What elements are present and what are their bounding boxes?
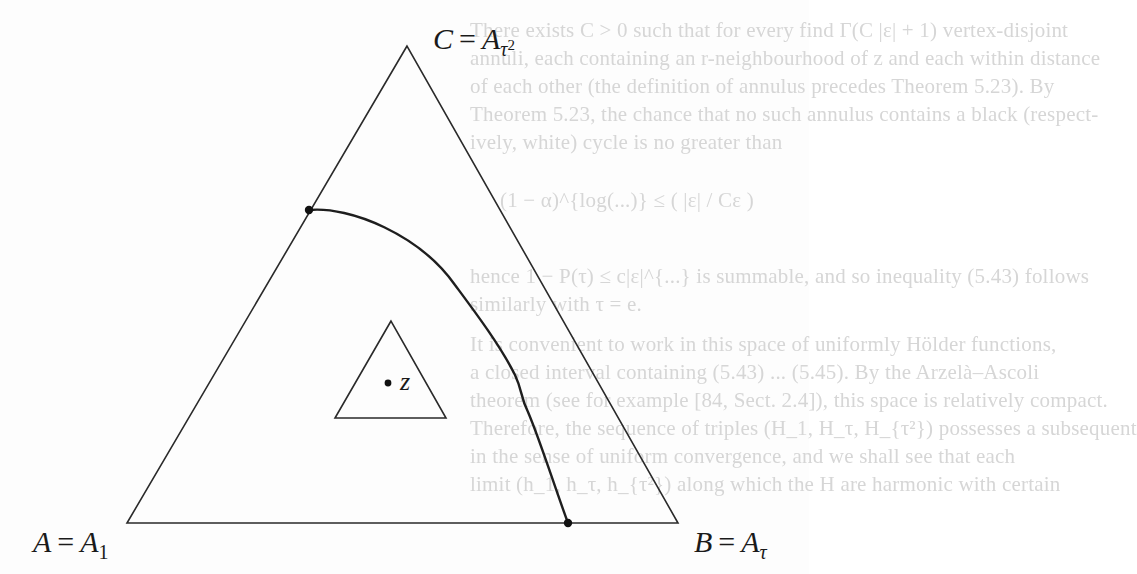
label-a-value: A [80,525,98,558]
label-b-equals: = [718,525,735,558]
label-c-equals: = [459,22,476,55]
inner-triangle [335,321,446,418]
vertex-label-c: C=Aτ2 [433,24,515,54]
boundary-curve [309,210,568,523]
label-b-value: A [741,525,759,558]
label-b-subscript: τ [760,541,767,563]
point-z-label: z [400,369,410,395]
label-a-subscript: 1 [99,541,109,563]
point-z-dot [385,380,392,387]
label-c-subscript-power: 2 [507,37,515,53]
vertex-label-b: B=Aτ [694,527,767,557]
curve-start-dot [305,206,313,214]
outer-triangle [127,46,678,523]
label-c-name: C [433,22,453,55]
label-a-name: A [33,525,51,558]
label-c-value: A [482,22,500,55]
vertex-label-a: A=A1 [33,527,109,557]
curve-end-dot [564,519,572,527]
label-a-equals: = [57,525,74,558]
label-b-name: B [694,525,712,558]
